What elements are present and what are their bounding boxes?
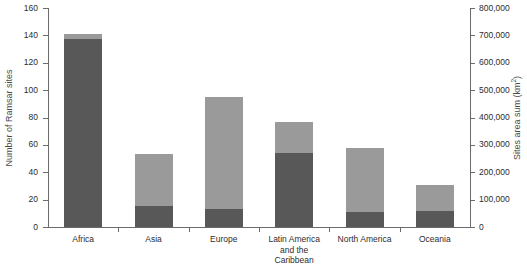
left-axis-tick-label: 120	[24, 58, 38, 67]
bar-segment-sites-count	[275, 122, 313, 153]
x-axis-tick	[189, 228, 190, 232]
right-axis-tick	[470, 172, 475, 173]
x-axis-tick	[118, 228, 119, 232]
x-axis-tick	[259, 228, 260, 232]
bar-segment-area-sum	[346, 212, 384, 227]
bar-segment-area-sum	[64, 39, 102, 227]
left-axis-tick-label: 160	[24, 4, 38, 13]
right-axis-tick-label: 100,000	[479, 195, 510, 204]
category-label: Oceania	[380, 234, 490, 245]
bar-africa	[64, 34, 102, 227]
right-axis-tick	[470, 35, 475, 36]
right-axis-tick-label: 500,000	[479, 86, 510, 95]
bar-segment-area-sum	[275, 153, 313, 227]
right-axis-title-main: Sites area sum (km	[512, 83, 522, 161]
right-axis-tick-label: 800,000	[479, 4, 510, 13]
left-axis-tick-label: 60	[29, 140, 38, 149]
left-axis-tick-label: 0	[33, 223, 38, 232]
right-axis-title: Sites area sum (km2)	[511, 76, 522, 160]
right-axis-tick	[470, 90, 475, 91]
bar-segment-area-sum	[205, 209, 243, 227]
right-axis-title-tail: )	[512, 76, 522, 79]
right-axis-tick-label: 400,000	[479, 113, 510, 122]
left-axis-tick-label: 80	[29, 113, 38, 122]
bar-segment-area-sum	[135, 206, 173, 227]
right-axis-tick-label: 600,000	[479, 58, 510, 67]
x-axis-tick	[329, 228, 330, 232]
right-axis-tick	[470, 200, 475, 201]
right-axis-tick	[470, 63, 475, 64]
right-axis-tick-label: 0	[479, 223, 484, 232]
bar-segment-sites-count	[416, 185, 454, 211]
x-axis-tick	[400, 228, 401, 232]
bar-segment-sites-count	[346, 148, 384, 212]
bar-segment-sites-count	[205, 97, 243, 209]
bar-segment-sites-count	[135, 154, 173, 206]
ramsar-sites-bar-chart: 020406080100120140160 0100,000200,000300…	[0, 0, 527, 270]
right-axis-tick-label: 700,000	[479, 31, 510, 40]
right-axis-tick	[470, 8, 475, 9]
left-axis-tick-label: 40	[29, 168, 38, 177]
left-axis-tick-label: 20	[29, 195, 38, 204]
bar-asia	[135, 154, 173, 227]
bar-europe	[205, 97, 243, 227]
bar-latin-america-and-the-caribbean	[275, 122, 313, 227]
left-axis-tick-label: 100	[24, 86, 38, 95]
right-axis-tick	[470, 227, 475, 228]
plot-area	[48, 8, 470, 227]
left-axis-tick-label: 140	[24, 31, 38, 40]
right-axis-tick	[470, 145, 475, 146]
right-axis-title-superscript: 2	[510, 79, 517, 83]
left-axis-tick	[43, 227, 48, 228]
left-axis-title: Number of Ramsar sites	[5, 69, 14, 166]
right-axis-tick-label: 300,000	[479, 140, 510, 149]
right-axis-tick-label: 200,000	[479, 168, 510, 177]
bar-oceania	[416, 185, 454, 227]
right-axis-tick	[470, 118, 475, 119]
bar-north-america	[346, 148, 384, 227]
bar-segment-area-sum	[416, 211, 454, 227]
